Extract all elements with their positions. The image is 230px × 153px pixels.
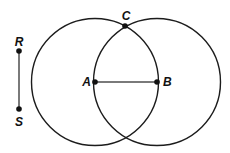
geometry-figure: RSABC [0,0,230,153]
point-A-dot [92,79,98,85]
point-B-label: B [163,75,172,89]
point-A-label: A [81,75,91,89]
point-R-label: R [15,35,24,49]
geometry-figure-container: RSABC [0,0,230,153]
point-S-label: S [15,115,23,129]
point-C-dot [122,23,128,29]
point-C-label: C [122,9,131,23]
point-R-dot [16,48,22,54]
point-S-dot [16,106,22,112]
point-B-dot [154,79,160,85]
